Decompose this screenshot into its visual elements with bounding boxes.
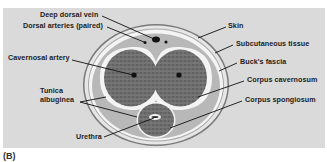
label-deep-dorsal-vein: Deep dorsal vein [40, 11, 98, 19]
deep-dorsal-vein [152, 37, 160, 43]
corpus-spongiosum [138, 104, 174, 137]
label-tunica-albuginea-line2: albuginea [40, 96, 74, 104]
label-urethra: Urethra [76, 133, 102, 141]
corpus-cavernosum-left [104, 50, 158, 107]
dorsal-artery-right [165, 41, 168, 44]
figure-panel-label: (B) [3, 151, 16, 161]
urethra-lumen [152, 116, 159, 118]
label-tunica-albuginea-line1: Tunica [40, 87, 63, 95]
leader-skin [198, 27, 226, 38]
label-skin: Skin [228, 22, 243, 30]
label-subcutaneous-tissue: Subcutaneous tissue [236, 40, 309, 48]
dorsal-artery-left [144, 41, 147, 44]
label-cavernosal-artery: Cavernosal artery [8, 54, 70, 62]
label-corpus-cavernosum: Corpus cavernosum [247, 76, 317, 84]
cavernosal-artery-right [176, 72, 181, 77]
corpus-cavernosum-right [153, 50, 207, 107]
label-bucks-fascia: Buck's fascia [240, 58, 286, 66]
label-corpus-spongiosum: Corpus spongiosum [245, 96, 316, 104]
label-dorsal-arteries: Dorsal arteries (paired) [23, 22, 103, 30]
leader-subcutaneous-tissue [215, 45, 233, 53]
